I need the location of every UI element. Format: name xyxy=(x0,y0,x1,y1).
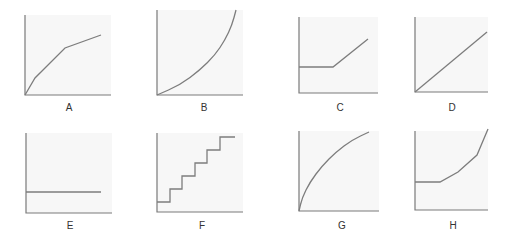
panel-label: A xyxy=(66,102,73,113)
plot-area xyxy=(299,17,378,93)
panel-d: D xyxy=(415,17,488,113)
plot-area xyxy=(26,133,112,213)
panel-label: G xyxy=(338,220,346,231)
panel-label: D xyxy=(448,102,455,113)
panel-a: A xyxy=(25,15,111,113)
plot-area xyxy=(415,17,488,92)
panel-h: H xyxy=(415,129,488,231)
plot-area xyxy=(415,131,488,210)
plot-area xyxy=(25,15,111,95)
panel-e: E xyxy=(26,133,112,231)
panel-b: B xyxy=(157,10,243,113)
panel-label: E xyxy=(67,220,74,231)
panel-label: H xyxy=(449,220,456,231)
panel-label: C xyxy=(336,102,343,113)
figure-grid: ABCDEFGH xyxy=(0,0,512,240)
panel-g: G xyxy=(299,131,379,231)
plot-area xyxy=(299,131,379,211)
panel-c: C xyxy=(299,17,378,113)
panel-label: B xyxy=(201,102,208,113)
plot-area xyxy=(157,10,243,95)
panel-label: F xyxy=(199,220,205,231)
panel-f: F xyxy=(157,133,243,231)
